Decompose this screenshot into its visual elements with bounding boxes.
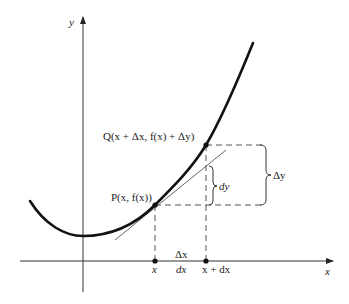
x-tick-label: x (151, 263, 157, 275)
delta-x-label: Δx (175, 248, 188, 260)
point-p-label: P(x, f(x)) (111, 191, 152, 204)
x-plus-dx-tick-label: x + dx (202, 263, 231, 275)
delta-y-label: Δy (273, 169, 286, 181)
point-q (203, 142, 208, 147)
delta-y-brace (260, 145, 271, 205)
dy-label: dy (219, 180, 230, 192)
dx-label: dx (176, 263, 187, 275)
x-axis-label: x (324, 265, 330, 277)
diagram-canvas: y x Q(x + Δx, f(x) + Δy) P(x, f(x)) x x … (0, 0, 349, 304)
dy-brace (209, 166, 217, 205)
point-q-label: Q(x + Δx, f(x) + Δy) (103, 130, 195, 143)
dashed-guides (155, 145, 263, 261)
point-p (152, 202, 157, 207)
y-axis-label: y (68, 16, 74, 28)
